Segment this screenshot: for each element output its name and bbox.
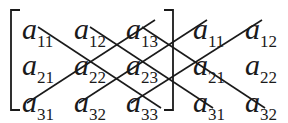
- matrix-entry-a12-rep: a12: [245, 14, 277, 44]
- matrix-entry-a12: a12: [74, 14, 106, 44]
- entry-subscript: 11: [208, 32, 224, 51]
- matrix-entry-a22: a22: [74, 50, 106, 80]
- entry-subscript: 32: [260, 105, 277, 123]
- matrix-entry-a21-rep: a21: [193, 50, 225, 80]
- matrix-entry-a33: a33: [126, 87, 158, 117]
- matrix-entry-a31: a31: [22, 87, 54, 117]
- matrix-entry-a23: a23: [126, 50, 158, 80]
- matrix-entry-a21: a21: [22, 50, 54, 80]
- entry-subscript: 12: [89, 32, 106, 51]
- entry-base: a: [74, 12, 89, 45]
- entry-base: a: [126, 48, 141, 81]
- matrix-entry-a13: a13: [126, 14, 158, 44]
- entry-subscript: 33: [141, 105, 158, 123]
- entry-subscript: 31: [208, 105, 225, 123]
- entry-subscript: 32: [89, 105, 106, 123]
- entry-base: a: [126, 12, 141, 45]
- matrix-entry-a32: a32: [74, 87, 106, 117]
- matrix-entry-a22-rep: a22: [245, 50, 277, 80]
- matrix-entry-a32-rep: a32: [245, 87, 277, 117]
- entry-base: a: [245, 12, 260, 45]
- entry-base: a: [193, 12, 208, 45]
- entry-base: a: [22, 85, 37, 118]
- entry-base: a: [22, 48, 37, 81]
- matrix-entry-a31-rep: a31: [193, 87, 225, 117]
- entry-subscript: 21: [37, 68, 54, 87]
- matrix-entry-a11-rep: a11: [193, 14, 224, 44]
- entry-subscript: 22: [89, 68, 106, 87]
- entry-base: a: [245, 85, 260, 118]
- entry-base: a: [74, 48, 89, 81]
- entry-subscript: 21: [208, 68, 225, 87]
- entry-base: a: [245, 48, 260, 81]
- sarrus-diagram: a11a12a13a21a22a23a31a32a33a11a12a21a22a…: [0, 0, 288, 123]
- entry-subscript: 11: [37, 32, 53, 51]
- entry-subscript: 13: [141, 32, 158, 51]
- entry-subscript: 23: [141, 68, 158, 87]
- entry-base: a: [74, 85, 89, 118]
- entry-base: a: [126, 85, 141, 118]
- entry-subscript: 12: [260, 32, 277, 51]
- entry-base: a: [193, 85, 208, 118]
- entry-subscript: 31: [37, 105, 54, 123]
- entry-base: a: [193, 48, 208, 81]
- left-bracket: [11, 10, 20, 110]
- matrix-entry-a11: a11: [22, 14, 53, 44]
- entry-subscript: 22: [260, 68, 277, 87]
- entry-base: a: [22, 12, 37, 45]
- right-bracket: [164, 10, 173, 110]
